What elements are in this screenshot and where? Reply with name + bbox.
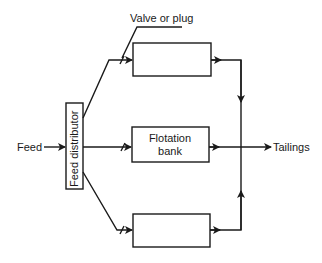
tailings-label: Tailings <box>273 141 310 153</box>
flotation-bank-bottom <box>133 214 210 247</box>
flotation-diagram: Feed Feed distributor Valve or plug Flot… <box>0 0 322 263</box>
output-top-line <box>211 60 241 147</box>
valve-label: Valve or plug <box>130 12 193 24</box>
flotation-bank-top <box>133 43 211 76</box>
flotation-bank-label-2: bank <box>158 145 182 157</box>
output-bottom-line <box>210 147 241 230</box>
feed-label: Feed <box>17 141 42 153</box>
feed-distributor-label: Feed distributor <box>68 110 80 187</box>
branch-top-line <box>83 60 132 118</box>
flotation-bank-label-1: Flotation <box>149 132 191 144</box>
branch-bottom-line <box>83 172 132 230</box>
